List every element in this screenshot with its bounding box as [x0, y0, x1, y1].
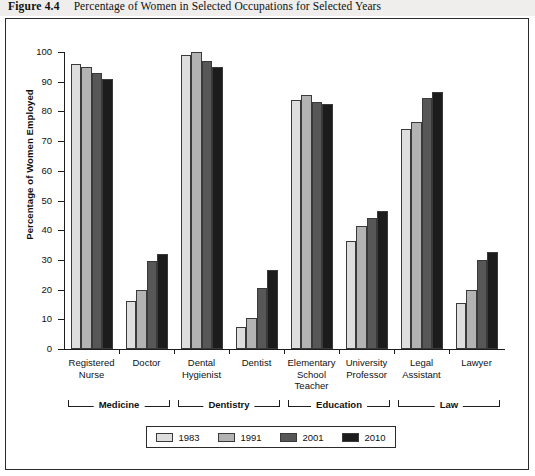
bar-chart: 0102030405060708090100 Percentage of Wom…: [6, 19, 530, 471]
field-bracket-cap-left: [68, 400, 69, 407]
bar: [212, 67, 223, 349]
field-bracket-cap-right: [169, 400, 170, 407]
x-axis-group-separator: [119, 349, 120, 354]
bar: [267, 270, 278, 349]
bar: [377, 211, 388, 349]
bar: [411, 122, 422, 349]
field-bracket-cap-left: [398, 400, 399, 407]
bar: [126, 301, 137, 349]
bar: [136, 290, 147, 349]
field-bracket-label: Law: [435, 399, 463, 410]
bar: [312, 102, 323, 349]
legend-item[interactable]: 1983: [156, 432, 199, 443]
field-bracket-label: Education: [311, 399, 367, 410]
y-axis-tick: [58, 201, 65, 202]
bar: [422, 98, 433, 349]
bar: [487, 252, 498, 349]
x-axis-category-label-line: Nurse: [57, 369, 127, 381]
bar: [202, 61, 213, 349]
field-bracket-cap-right: [279, 400, 280, 407]
y-axis-tick: [58, 349, 65, 350]
x-axis-category-label-line: Teacher: [277, 380, 347, 392]
bar: [456, 303, 467, 349]
chart-legend: 1983199120012010: [146, 426, 396, 448]
bar: [157, 254, 168, 349]
field-bracket-cap-right: [499, 400, 500, 407]
y-axis-tick: [58, 141, 65, 142]
bar: [236, 327, 247, 349]
bar: [92, 73, 103, 349]
x-axis-group-separator: [449, 349, 450, 354]
field-bracket-label: Dentistry: [203, 399, 254, 410]
bar: [147, 261, 158, 349]
bar: [71, 64, 82, 349]
field-bracket-label: Medicine: [94, 399, 145, 410]
legend-label: 2010: [364, 432, 385, 443]
legend-item[interactable]: 2001: [280, 432, 323, 443]
field-bracket: Dentistry: [178, 406, 280, 418]
field-bracket-cap-left: [288, 400, 289, 407]
y-axis-tick-label: 10: [12, 313, 52, 324]
x-axis-category-label-line: Lawyer: [442, 357, 512, 369]
bar: [257, 288, 268, 349]
y-axis-tick: [58, 111, 65, 112]
figure-number: Figure 4.4: [8, 0, 60, 12]
legend-label: 1991: [240, 432, 261, 443]
y-axis-tick-label: 0: [12, 343, 52, 354]
field-bracket: Medicine: [68, 406, 170, 418]
x-axis-category-label-line: Assistant: [387, 369, 457, 381]
legend-swatch: [156, 433, 173, 442]
legend-item[interactable]: 2010: [342, 432, 385, 443]
y-axis-tick: [58, 82, 65, 83]
bar: [191, 52, 202, 349]
y-axis-tick-label: 20: [12, 284, 52, 295]
x-axis-category-label: Lawyer: [442, 357, 512, 369]
legend-label: 2001: [302, 432, 323, 443]
y-axis-tick: [58, 230, 65, 231]
field-bracket: Education: [288, 406, 390, 418]
bar: [246, 318, 257, 349]
bar: [356, 226, 367, 349]
y-axis-tick-label: 100: [12, 46, 52, 57]
figure-title: Percentage of Women in Selected Occupati…: [74, 0, 381, 12]
y-axis-title: Percentage of Women Employed: [24, 65, 35, 265]
bar: [181, 55, 192, 349]
bar: [81, 67, 92, 349]
y-axis-tick: [58, 260, 65, 261]
bar: [432, 92, 443, 349]
legend-item[interactable]: 1991: [218, 432, 261, 443]
x-axis-group-separator: [174, 349, 175, 354]
bar: [322, 104, 333, 349]
figure-plate: 0102030405060708090100 Percentage of Wom…: [5, 18, 529, 470]
y-axis-tick: [58, 319, 65, 320]
legend-label: 1983: [178, 432, 199, 443]
y-axis-tick: [58, 171, 65, 172]
y-axis-tick: [58, 52, 65, 53]
y-axis-tick: [58, 290, 65, 291]
legend-swatch: [218, 433, 235, 442]
bar: [291, 100, 302, 349]
field-bracket-cap-left: [178, 400, 179, 407]
bar: [102, 79, 113, 349]
field-bracket: Law: [398, 406, 500, 418]
field-bracket-cap-right: [389, 400, 390, 407]
bar: [367, 218, 378, 349]
bar: [401, 129, 412, 349]
x-axis-category-label-line: Hygienist: [167, 369, 237, 381]
x-axis-group-separator: [284, 349, 285, 354]
figure-caption: Figure 4.4 Percentage of Women in Select…: [0, 0, 535, 16]
bar: [301, 95, 312, 349]
legend-swatch: [342, 433, 359, 442]
x-axis-group-separator: [394, 349, 395, 354]
bar: [477, 260, 488, 349]
x-axis-group-separator: [229, 349, 230, 354]
bar: [466, 290, 477, 349]
bar: [346, 241, 357, 349]
legend-swatch: [280, 433, 297, 442]
x-axis-group-separator: [339, 349, 340, 354]
